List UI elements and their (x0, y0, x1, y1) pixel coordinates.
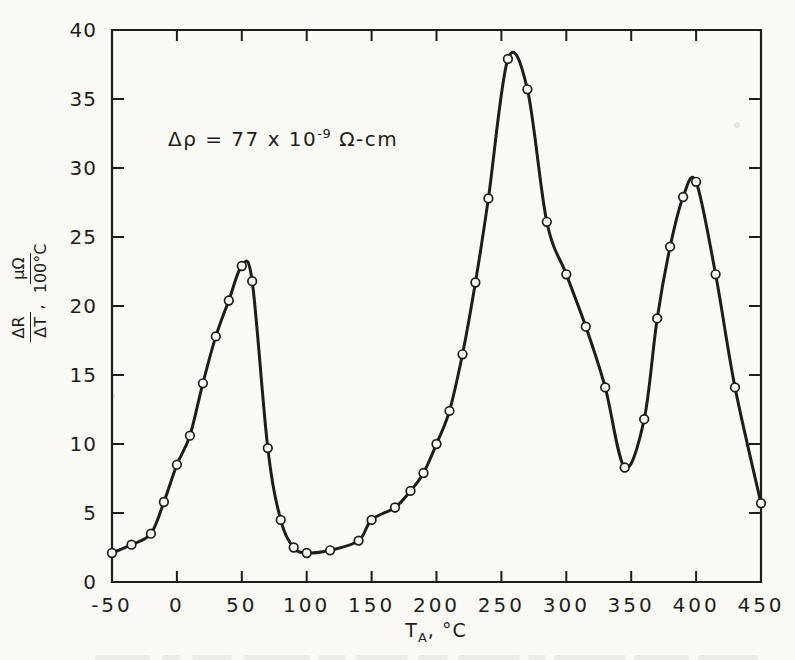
cropped-caption-ghost (95, 655, 150, 660)
chart-canvas: -500501001502002503003504004500510152025… (0, 0, 795, 660)
data-point-marker (523, 85, 532, 94)
annotation-exponent: -9 (317, 126, 331, 141)
x-axis-title-units: , °C (428, 619, 467, 641)
data-point-marker (276, 516, 285, 525)
y-tick-label: 5 (83, 501, 97, 525)
cropped-caption-ghost (418, 655, 448, 660)
data-point-marker (543, 218, 552, 227)
data-point-marker (731, 383, 740, 392)
x-tick-label: 200 (413, 593, 460, 617)
data-point-marker (562, 270, 571, 279)
x-tick-label: -50 (91, 593, 133, 617)
data-point-marker (302, 549, 311, 558)
data-point-marker (199, 379, 208, 388)
data-point-marker (354, 536, 363, 545)
scan-speck (734, 122, 740, 128)
x-tick-label: 300 (543, 593, 590, 617)
y-tick-label: 25 (70, 225, 97, 249)
data-point-marker (471, 278, 480, 287)
data-point-marker (225, 296, 234, 305)
data-point-marker (127, 540, 136, 549)
data-point-marker (238, 262, 247, 271)
x-axis-title: TA, °C (356, 619, 516, 645)
y-tick-label: 35 (70, 87, 97, 111)
data-point-marker (692, 178, 701, 187)
y-axis-title: ΔR ΔT , μΩ 100°C (1, 221, 59, 361)
x-axis-title-base: T (405, 619, 418, 641)
data-point-marker (367, 516, 376, 525)
data-point-marker (248, 277, 257, 286)
y-tick-label: 20 (70, 294, 97, 318)
data-point-marker (458, 350, 467, 359)
x-tick-label: 0 (169, 593, 185, 617)
figure-page: -500501001502002503003504004500510152025… (0, 0, 795, 660)
cropped-caption-ghost (528, 655, 546, 660)
data-point-marker (582, 322, 591, 331)
annotation-suffix: Ω-cm (331, 127, 398, 151)
cropped-caption-ghost (554, 655, 626, 660)
data-point-marker (264, 444, 273, 453)
data-point-marker (108, 549, 117, 558)
data-point-marker (160, 498, 169, 507)
y-axis-fraction-dR-dT: ΔR ΔT (10, 312, 50, 342)
cropped-caption-ghost (634, 655, 689, 660)
data-point-marker (601, 383, 610, 392)
cropped-caption-ghost (458, 655, 520, 660)
data-point-marker (445, 407, 454, 416)
data-point-marker (419, 469, 428, 478)
x-tick-label: 50 (226, 593, 257, 617)
cropped-caption-ghost (162, 655, 180, 660)
y-tick-label: 15 (70, 363, 97, 387)
data-point-marker (666, 242, 675, 251)
x-tick-label: 350 (608, 593, 655, 617)
data-point-marker (406, 487, 415, 496)
y-axis-title-comma: , (28, 304, 47, 309)
cropped-caption-ghost (244, 655, 310, 660)
data-point-marker (212, 332, 221, 341)
data-point-marker (679, 193, 688, 202)
y-tick-label: 10 (70, 432, 97, 456)
data-point-marker (620, 463, 629, 472)
resistivity-derivative-chart: -500501001502002503003504004500510152025… (0, 0, 795, 660)
data-point-marker (391, 503, 400, 512)
y-tick-label: 40 (70, 18, 97, 42)
y-tick-label: 30 (70, 156, 97, 180)
data-point-marker (711, 270, 720, 279)
x-tick-label: 250 (478, 593, 525, 617)
delta-rho-annotation: Δρ = 77 x 10-9 Ω-cm (168, 126, 398, 151)
y-axis-units-numerator: μΩ (10, 253, 30, 283)
cropped-caption-ghost (356, 655, 408, 660)
y-axis-denominator-dT: ΔT (31, 313, 50, 342)
plot-frame (112, 30, 761, 582)
data-point-marker (173, 460, 182, 469)
y-axis-numerator-dR: ΔR (10, 312, 30, 342)
x-tick-label: 400 (673, 593, 720, 617)
data-point-marker (186, 431, 195, 440)
data-point-marker (432, 440, 441, 449)
x-tick-label: 100 (283, 593, 330, 617)
x-tick-label: 450 (737, 593, 784, 617)
data-point-marker (504, 55, 513, 64)
y-axis-units-denominator: 100°C (31, 240, 50, 298)
x-axis-title-subscript: A (418, 630, 428, 645)
cropped-caption-ghost (698, 655, 758, 660)
annotation-prefix: Δρ = 77 x 10 (168, 127, 317, 151)
data-point-marker (640, 415, 649, 424)
cropped-caption-ghost (192, 655, 232, 660)
data-point-marker (653, 314, 662, 323)
y-tick-label: 0 (83, 570, 97, 594)
cropped-caption-ghost (318, 655, 346, 660)
y-axis-fraction-units: μΩ 100°C (10, 240, 50, 298)
data-point-marker (326, 546, 335, 555)
data-point-marker (147, 529, 156, 538)
data-point-marker (484, 194, 493, 203)
x-tick-label: 150 (348, 593, 395, 617)
data-point-marker (289, 543, 298, 552)
data-point-marker (757, 499, 766, 508)
